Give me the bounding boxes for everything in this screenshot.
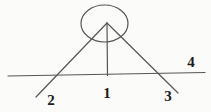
label-3: 3 [164, 88, 172, 104]
label-4: 4 [187, 54, 195, 70]
geometry-diagram: 2 1 3 4 [0, 0, 211, 112]
diagram-canvas: 2 1 3 4 [0, 0, 211, 112]
ray-line-1 [107, 23, 108, 76]
label-1: 1 [103, 85, 111, 101]
label-2: 2 [47, 92, 55, 108]
